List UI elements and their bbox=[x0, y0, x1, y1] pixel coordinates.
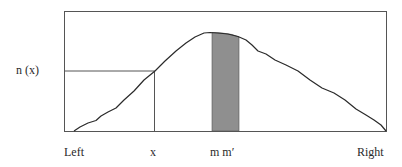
shaded-band-m-mprime bbox=[212, 33, 239, 132]
y-axis-label-nx: n (x) bbox=[16, 63, 39, 78]
x-label-x: x bbox=[150, 145, 156, 160]
distribution-diagram: n (x) Left x m m′ Right bbox=[0, 0, 402, 167]
x-label-right: Right bbox=[357, 145, 384, 160]
diagram-canvas bbox=[0, 0, 402, 167]
x-label-m-mprime: m m′ bbox=[210, 145, 234, 160]
x-label-left: Left bbox=[64, 145, 84, 160]
